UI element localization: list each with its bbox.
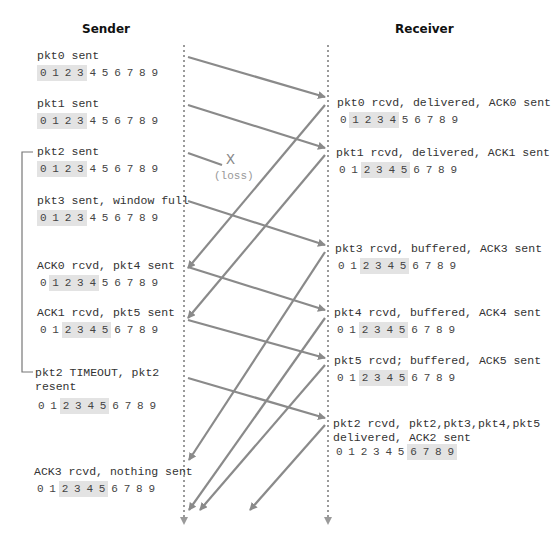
sender-event-1-window: 0123456789	[37, 113, 161, 129]
seq-number: 3	[370, 444, 382, 460]
message-arrows	[188, 57, 325, 510]
seq-number: 8	[435, 162, 447, 178]
seq-number: 3	[72, 398, 84, 414]
seq-number: 0	[333, 444, 345, 460]
loss-mark-icon: X	[226, 152, 235, 169]
seq-number: 1	[49, 161, 61, 177]
seq-number: 1	[46, 481, 58, 497]
seq-number: 0	[37, 210, 49, 226]
seq-number: 1	[49, 322, 61, 338]
seq-number: 4	[87, 113, 99, 129]
seq-number: 6	[411, 112, 423, 128]
message-arrow-ack3	[189, 252, 325, 460]
seq-number: 0	[337, 112, 349, 128]
sender-event-0-window: 0123456789	[37, 65, 161, 81]
seq-number: 3	[371, 322, 383, 338]
seq-number: 3	[74, 113, 86, 129]
seq-number: 7	[423, 162, 435, 178]
seq-number: 3	[372, 258, 384, 274]
seq-number: 9	[445, 444, 457, 460]
seq-number: 9	[448, 162, 460, 178]
seq-number: 3	[74, 65, 86, 81]
receiver-event-2-label: pkt3 rcvd, buffered, ACK3 sent	[335, 242, 542, 256]
seq-number: 3	[74, 161, 86, 177]
seq-number: 9	[146, 481, 158, 497]
message-arrow-pkt2-resent	[188, 378, 325, 418]
seq-number: 4	[85, 398, 97, 414]
timeout-bracket	[22, 152, 33, 372]
seq-number: 6	[408, 370, 420, 386]
seq-number: 9	[149, 322, 161, 338]
seq-number: 3	[74, 322, 86, 338]
seq-number: 9	[447, 258, 459, 274]
seq-number: 1	[346, 322, 358, 338]
receiver-event-5-label: pkt2 rcvd, pkt2,pkt3,pkt4,pkt5 delivered…	[333, 417, 540, 445]
seq-number: 4	[87, 65, 99, 81]
receiver-event-0-window: 0123456789	[337, 112, 461, 128]
seq-number: 9	[446, 370, 458, 386]
sender-event-1-label: pkt1 sent	[37, 97, 99, 111]
seq-number: 4	[87, 275, 99, 291]
seq-number: 6	[111, 275, 123, 291]
seq-number: 9	[446, 322, 458, 338]
receiver-event-3-window: 0123456789	[334, 322, 458, 338]
seq-number: 2	[62, 275, 74, 291]
sender-event-5-window: 0123456789	[37, 322, 161, 338]
seq-number: 2	[358, 444, 370, 460]
seq-number: 2	[59, 481, 71, 497]
seq-number: 0	[334, 322, 346, 338]
seq-number: 4	[387, 112, 399, 128]
seq-number: 2	[360, 258, 372, 274]
seq-number: 7	[121, 481, 133, 497]
seq-number: 2	[359, 322, 371, 338]
receiver-event-5-window: 0123456789	[333, 444, 457, 460]
seq-number: 8	[136, 65, 148, 81]
message-arrow-pkt1	[188, 105, 325, 148]
seq-number: 5	[96, 481, 108, 497]
seq-number: 4	[384, 322, 396, 338]
seq-number: 3	[373, 162, 385, 178]
seq-number: 4	[383, 444, 395, 460]
seq-number: 0	[37, 161, 49, 177]
receiver-timeline-arrowhead-icon	[324, 517, 332, 525]
seq-number: 0	[334, 370, 346, 386]
seq-number: 1	[347, 258, 359, 274]
seq-number: 7	[422, 258, 434, 274]
seq-number: 5	[396, 370, 408, 386]
seq-number: 5	[99, 210, 111, 226]
seq-number: 3	[374, 112, 386, 128]
seq-number: 0	[37, 113, 49, 129]
seq-number: 2	[62, 161, 74, 177]
seq-number: 9	[149, 113, 161, 129]
seq-number: 8	[136, 275, 148, 291]
seq-number: 8	[436, 112, 448, 128]
seq-number: 1	[346, 370, 358, 386]
seq-number: 7	[124, 161, 136, 177]
receiver-event-3-label: pkt4 rcvd, buffered, ACK4 sent	[334, 306, 541, 320]
seq-number: 8	[136, 161, 148, 177]
seq-number: 4	[84, 481, 96, 497]
seq-number: 5	[99, 322, 111, 338]
message-arrow-pkt5	[188, 320, 325, 358]
seq-number: 8	[134, 398, 146, 414]
seq-number: 0	[37, 322, 49, 338]
message-arrow-pkt3	[188, 201, 325, 245]
message-arrow-ack1	[188, 155, 325, 318]
seq-number: 4	[385, 258, 397, 274]
seq-number: 5	[396, 322, 408, 338]
seq-number: 4	[87, 210, 99, 226]
sender-event-6-label: pkt2 TIMEOUT, pkt2 resent	[35, 366, 159, 394]
seq-number: 5	[395, 444, 407, 460]
sender-event-3-label: pkt3 sent, window full	[37, 194, 189, 208]
seq-number: 5	[99, 65, 111, 81]
seq-number: 4	[87, 322, 99, 338]
seq-number: 7	[124, 322, 136, 338]
seq-number: 1	[349, 112, 361, 128]
seq-number: 9	[149, 275, 161, 291]
seq-number: 5	[399, 112, 411, 128]
seq-number: 8	[136, 210, 148, 226]
seq-number: 4	[87, 161, 99, 177]
seq-number: 9	[147, 398, 159, 414]
seq-number: 4	[384, 370, 396, 386]
receiver-event-1-label: pkt1 rcvd, delivered, ACK1 sent	[336, 146, 550, 160]
